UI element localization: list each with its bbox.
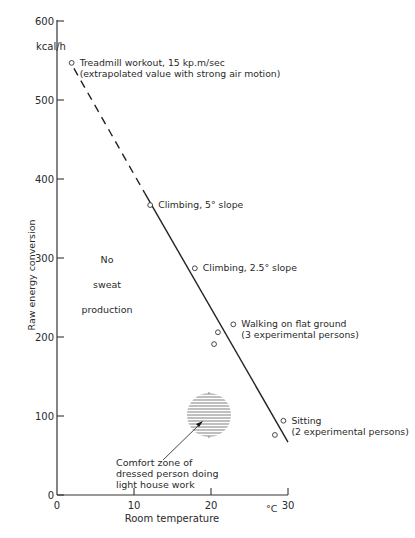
point-label: Sitting <box>291 415 321 426</box>
y-tick-label: 200 <box>35 332 54 343</box>
point-label: Climbing, 5° slope <box>158 199 243 210</box>
y-tick-label: 400 <box>35 174 54 185</box>
comfort-zone <box>163 392 231 460</box>
point-label: Treadmill workout, 15 kp.m/sec <box>79 57 225 68</box>
y-tick-label: 300 <box>35 253 54 264</box>
no-sweat-label: No <box>101 254 114 265</box>
data-point <box>216 330 221 335</box>
y-unit-label: kcal/h <box>36 41 66 52</box>
x-tick-label: 20 <box>205 500 218 511</box>
data-point <box>273 433 278 438</box>
comfort-zone-label: dressed person doing <box>116 468 218 479</box>
data-point <box>192 266 197 271</box>
x-tick-label: 10 <box>128 500 141 511</box>
y-tick-label: 100 <box>35 411 54 422</box>
point-label: Climbing, 2.5° slope <box>203 262 297 273</box>
data-point <box>148 203 153 208</box>
data-point <box>69 60 74 65</box>
y-axis-label: Raw energy conversion <box>26 220 37 331</box>
y-tick-label: 600 <box>35 16 54 27</box>
trend-line-dashed <box>74 68 145 193</box>
no-sweat-label: sweat <box>93 279 121 290</box>
point-label-sub: (extrapolated value with strong air moti… <box>80 68 281 79</box>
data-point <box>281 418 286 423</box>
comfort-zone-label: light house work <box>116 479 195 490</box>
x-tick-labels: 0102030 <box>54 488 295 511</box>
data-point <box>212 342 217 347</box>
comfort-zone-pointer <box>163 424 200 460</box>
chart-canvas: 0100200300400500600 0102030 kcal/h Raw e… <box>0 0 415 538</box>
data-point <box>231 322 236 327</box>
x-tick-label: 30 <box>282 500 295 511</box>
comfort-zone-label: Comfort zone of <box>116 457 193 468</box>
y-tick-label: 500 <box>35 95 54 106</box>
x-tick-label: 0 <box>54 500 60 511</box>
point-label: Walking on flat ground <box>241 318 346 329</box>
point-label-sub: (2 experimental persons) <box>291 426 408 437</box>
no-sweat-label: production <box>82 304 133 315</box>
x-unit-label: °C <box>266 503 278 514</box>
x-axis-label: Room temperature <box>125 513 220 524</box>
annotations: NosweatproductionComfort zone ofdressed … <box>82 254 219 490</box>
point-label-sub: (3 experimental persons) <box>241 329 358 340</box>
point-labels: Treadmill workout, 15 kp.m/sec(extrapola… <box>79 57 409 437</box>
y-tick-labels: 0100200300400500600 <box>35 16 64 501</box>
